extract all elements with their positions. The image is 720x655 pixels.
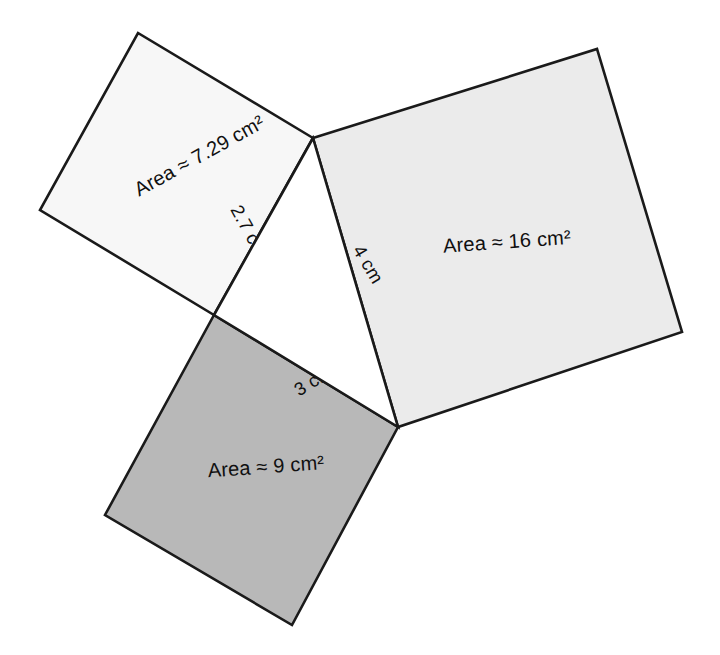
figure-canvas: Area ≈ 7.29 cm² 2.7 cm Area ≈ 16 cm² 4 c… — [0, 0, 720, 655]
pythagorean-diagram: Area ≈ 7.29 cm² 2.7 cm Area ≈ 16 cm² 4 c… — [0, 0, 720, 655]
